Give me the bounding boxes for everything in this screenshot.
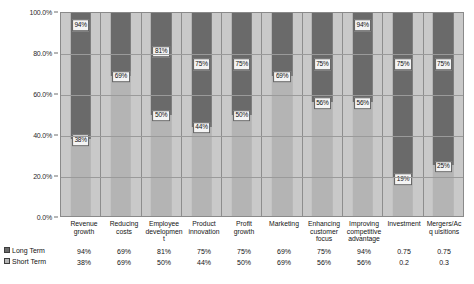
bar-column: 75%50%: [222, 13, 262, 216]
bar-segment-short-term: [232, 115, 252, 217]
y-axis-tick-label: 80.0%: [33, 50, 52, 57]
bar-segment-long-term: [151, 13, 171, 115]
data-label-short-term: 56%: [314, 97, 331, 109]
bar-column: 75%25%: [424, 13, 463, 216]
data-label-short-term: 69%: [112, 71, 129, 83]
data-label-long-term: 75%: [233, 59, 250, 71]
legend-item-long-term: Long Term: [0, 246, 64, 257]
cell-long-term-value: 81%: [144, 246, 184, 257]
bar-series-container: 94%38%69%69%81%50%75%44%75%50%69%69%75%5…: [61, 13, 463, 216]
data-label-short-term: 69%: [273, 71, 290, 83]
bar-column: 69%69%: [262, 13, 302, 216]
bar-segment-long-term: [70, 13, 90, 139]
bar-stack: 75%44%: [191, 13, 211, 216]
bar-stack: 75%19%: [393, 13, 413, 216]
data-label-short-term: 44%: [193, 122, 210, 134]
bar-stack: 75%25%: [433, 13, 453, 216]
bar-stack: 75%56%: [312, 13, 332, 216]
cell-long-term-value: 94%: [344, 246, 384, 257]
data-label-short-term: 25%: [435, 161, 452, 173]
bar-column: 69%69%: [101, 13, 141, 216]
bar-segment-short-term: [111, 76, 131, 216]
table-corner-cell: [0, 218, 64, 246]
category-label: Investment: [384, 218, 424, 246]
legend-label: Long Term: [12, 247, 45, 254]
category-label: Enhancing customer focus: [304, 218, 344, 246]
bar-segment-short-term: [191, 127, 211, 216]
bar-column: 75%44%: [182, 13, 222, 216]
cell-short-term-value: 0.3: [424, 257, 464, 268]
bar-stack: 69%69%: [272, 13, 292, 216]
cell-short-term-value: 44%: [184, 257, 224, 268]
stacked-column-chart: 0.0%20.0%40.0%60.0%80.0%100.0% 94%38%69%…: [0, 0, 474, 284]
data-label-long-term: 81%: [153, 46, 170, 58]
category-label: Employee development: [144, 218, 184, 246]
cell-long-term-value: 75%: [184, 246, 224, 257]
bar-segment-long-term: [111, 13, 131, 76]
cell-short-term-value: 50%: [224, 257, 264, 268]
data-label-short-term: 19%: [394, 173, 411, 185]
category-label: Reducing costs: [104, 218, 144, 246]
data-label-short-term: 50%: [153, 110, 170, 122]
bar-segment-long-term: [393, 13, 413, 177]
cell-short-term-value: 0.2: [384, 257, 424, 268]
data-label-long-term: 94%: [354, 20, 371, 32]
data-label-long-term: 75%: [314, 59, 331, 71]
category-label: Profit growth: [224, 218, 264, 246]
data-label-long-term: 75%: [394, 59, 411, 71]
cell-long-term-value: 0.75: [424, 246, 464, 257]
cell-long-term-value: 0.75: [384, 246, 424, 257]
cell-short-term-value: 38%: [64, 257, 104, 268]
bar-stack: 75%50%: [232, 13, 252, 216]
bar-column: 75%56%: [303, 13, 343, 216]
table-row-long-term: Long Term94%69%81%75%75%69%75%94%0.750.7…: [0, 246, 464, 257]
data-label-short-term: 56%: [354, 97, 371, 109]
cell-short-term-value: 56%: [344, 257, 384, 268]
data-label-short-term: 38%: [72, 134, 89, 146]
data-table: Revenue growthReducing costsEmployee dev…: [0, 218, 464, 268]
bar-segment-long-term: [433, 13, 453, 165]
bar-stack: 81%50%: [151, 13, 171, 216]
table-header-row: Revenue growthReducing costsEmployee dev…: [0, 218, 464, 246]
y-axis-tick-label: 100.0%: [29, 9, 52, 16]
square-light-icon: [4, 258, 10, 264]
data-table-wrap: Revenue growthReducing costsEmployee dev…: [0, 218, 474, 284]
category-label: Revenue growth: [64, 218, 104, 246]
cell-long-term-value: 94%: [64, 246, 104, 257]
bar-column: 81%50%: [142, 13, 182, 216]
data-label-long-term: 75%: [193, 59, 210, 71]
bar-segment-short-term: [312, 102, 332, 216]
bar-segment-short-term: [272, 76, 292, 216]
cell-long-term-value: 69%: [264, 246, 304, 257]
legend-item-short-term: Short Term: [0, 257, 64, 268]
table-row-short-term: Short Term38%69%50%44%50%69%56%56%0.20.3: [0, 257, 464, 268]
bar-segment-long-term: [272, 13, 292, 76]
category-label: Marketing: [264, 218, 304, 246]
data-label-long-term: 75%: [435, 59, 452, 71]
cell-short-term-value: 69%: [264, 257, 304, 268]
bar-segment-short-term: [70, 139, 90, 216]
y-axis-tick-mark: [54, 176, 58, 177]
bar-stack: 69%69%: [111, 13, 131, 216]
y-axis-tick-mark: [54, 12, 58, 13]
category-label: Product innovation: [184, 218, 224, 246]
cell-short-term-value: 69%: [104, 257, 144, 268]
plot-area: 94%38%69%69%81%50%75%44%75%50%69%69%75%5…: [60, 12, 464, 217]
bar-segment-short-term: [151, 115, 171, 217]
y-axis-tick-mark: [54, 135, 58, 136]
square-dark-icon: [4, 247, 10, 253]
bar-segment-short-term: [353, 102, 373, 216]
y-axis-tick-label: 20.0%: [33, 173, 52, 180]
bar-segment-short-term: [433, 165, 453, 216]
bar-column: 94%38%: [61, 13, 101, 216]
category-label: Improving competitive advantage: [344, 218, 384, 246]
bar-stack: 94%56%: [353, 13, 373, 216]
data-label-short-term: 50%: [233, 110, 250, 122]
cell-long-term-value: 75%: [224, 246, 264, 257]
category-label: Mergers/Acq uisitions: [424, 218, 464, 246]
y-axis-tick-label: 40.0%: [33, 132, 52, 139]
y-axis-tick-mark: [54, 53, 58, 54]
bar-stack: 94%38%: [70, 13, 90, 216]
plot-frame: 94%38%69%69%81%50%75%44%75%50%69%69%75%5…: [60, 12, 464, 217]
bar-column: 94%56%: [343, 13, 383, 216]
